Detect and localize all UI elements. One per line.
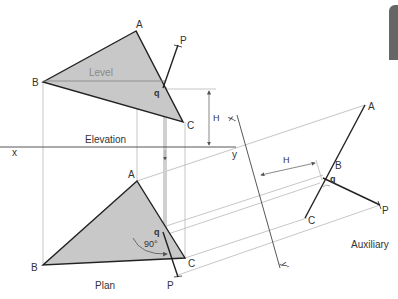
pq-line-elevation bbox=[163, 45, 178, 88]
plan-point-p: P bbox=[167, 280, 174, 291]
plan-point-b: B bbox=[31, 262, 38, 273]
y-label: y bbox=[232, 149, 237, 160]
auxiliary-label: Auxiliary bbox=[351, 239, 389, 250]
h-label-auxiliary: H bbox=[283, 155, 290, 165]
auxiliary-point-p: P bbox=[382, 205, 389, 216]
plan-point-a: A bbox=[128, 169, 135, 180]
x-label: x bbox=[12, 147, 17, 158]
elevation-point-b: B bbox=[32, 77, 39, 88]
right-angle-mark bbox=[323, 185, 330, 187]
plan-point-q: q bbox=[154, 227, 160, 237]
elevation-triangle bbox=[43, 31, 183, 122]
elevation-point-c: C bbox=[187, 120, 194, 131]
auxiliary-point-c: C bbox=[308, 215, 315, 226]
descriptive-geometry-diagram: x y x' y' H H Level A B C P q Elevation … bbox=[0, 0, 398, 299]
plan-label: Plan bbox=[95, 280, 115, 291]
x-prime-y-prime-line bbox=[237, 115, 280, 268]
level-label: Level bbox=[89, 67, 113, 78]
h-label-elevation: H bbox=[213, 113, 220, 123]
x-prime-label: x' bbox=[226, 115, 237, 124]
y-prime-label: y' bbox=[279, 261, 290, 270]
auxiliary-point-b: B bbox=[335, 160, 342, 171]
plan-point-c: C bbox=[188, 258, 195, 269]
auxiliary-point-a: A bbox=[368, 101, 375, 112]
elevation-point-a: A bbox=[136, 19, 143, 30]
auxiliary-point-q: q bbox=[330, 174, 336, 184]
elevation-label: Elevation bbox=[85, 134, 126, 145]
elevation-point-p: P bbox=[180, 35, 187, 46]
angle-label: 90° bbox=[144, 239, 158, 249]
elevation-point-q: q bbox=[154, 88, 160, 98]
